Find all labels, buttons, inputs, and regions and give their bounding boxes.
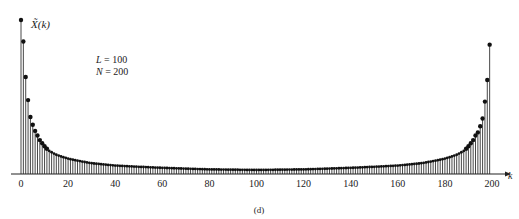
stem-marker — [83, 161, 86, 164]
stem-marker — [432, 160, 435, 163]
stem-marker — [69, 158, 72, 161]
x-tick-label: 180 — [437, 178, 452, 189]
stem-marker — [74, 159, 77, 162]
stem-marker — [444, 157, 447, 160]
param-L: L = 100 — [96, 54, 127, 65]
x-tick-label: 200 — [485, 178, 500, 189]
x-tick-label: 40 — [110, 178, 120, 189]
stem-marker — [19, 18, 23, 22]
param-L-value: = 100 — [104, 54, 127, 65]
stem-marker — [24, 75, 28, 79]
stem-marker — [26, 98, 30, 102]
stem-marker — [439, 158, 442, 161]
stem-marker — [21, 39, 25, 43]
stem-marker — [478, 124, 482, 128]
stem-marker — [434, 159, 437, 162]
stem-marker — [471, 138, 475, 142]
x-tick-label: 160 — [390, 178, 405, 189]
stem-marker — [427, 161, 430, 164]
stem-marker — [485, 78, 489, 82]
x-tick-label: 60 — [157, 178, 167, 189]
stem-marker — [81, 160, 84, 163]
stem-marker — [422, 161, 425, 164]
stem-marker — [67, 157, 70, 160]
stem-marker — [476, 130, 480, 134]
stem-marker — [78, 160, 81, 163]
stem-marker — [50, 151, 53, 154]
stem-marker — [28, 115, 32, 119]
stem-series — [19, 18, 492, 174]
x-axis-label: k — [508, 170, 512, 181]
stem-marker — [35, 133, 39, 137]
x-tick-label: 140 — [343, 178, 358, 189]
x-tick-label: 0 — [19, 178, 24, 189]
figure-caption: (d) — [254, 205, 265, 215]
stem-marker — [33, 129, 37, 133]
stem-marker — [436, 159, 439, 162]
x-tick-label: 120 — [296, 178, 311, 189]
x-tick-label: 80 — [204, 178, 214, 189]
stem-marker — [458, 152, 461, 155]
y-axis-label: X̃(k) — [31, 18, 50, 30]
stem-marker — [64, 156, 67, 159]
param-N-value: = 200 — [105, 66, 128, 77]
stem-marker — [441, 158, 444, 161]
stem-marker — [483, 99, 487, 103]
stem-marker — [480, 116, 484, 120]
stem-marker — [487, 42, 491, 46]
stem-marker — [71, 158, 74, 161]
stem-marker — [460, 151, 463, 154]
stem-marker — [429, 160, 432, 163]
stem-marker — [425, 161, 428, 164]
stem-marker — [48, 150, 51, 153]
param-N: N = 200 — [96, 66, 128, 77]
stem-marker — [88, 161, 91, 164]
x-tick-label: 100 — [249, 178, 264, 189]
stem-marker — [76, 159, 79, 162]
stem-marker — [86, 161, 89, 164]
stem-marker — [420, 162, 423, 165]
stem-marker — [31, 123, 35, 127]
x-tick-label: 20 — [63, 178, 73, 189]
